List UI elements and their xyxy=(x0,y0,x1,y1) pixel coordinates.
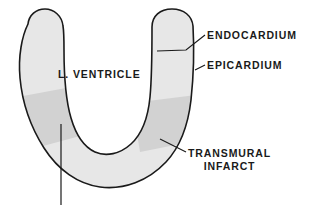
label-l-ventricle: L. VENTRICLE xyxy=(58,68,141,81)
label-endocardium: ENDOCARDIUM xyxy=(207,29,297,42)
label-transmural-infarct: TRANSMURALINFARCT xyxy=(188,147,271,173)
diagram-canvas: ENDOCARDIUM EPICARDIUM L. VENTRICLE TRAN… xyxy=(0,0,313,205)
label-epicardium: EPICARDIUM xyxy=(207,59,283,72)
label-transmural-line1: TRANSMURAL xyxy=(188,147,271,159)
leader-line-epicardium xyxy=(195,65,205,70)
label-transmural-line2: INFARCT xyxy=(188,160,271,173)
